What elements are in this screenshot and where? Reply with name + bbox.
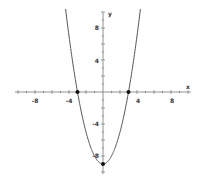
y-axis-label: y xyxy=(108,10,112,18)
x-tick-label: -4 xyxy=(66,97,73,104)
root-point-left xyxy=(76,90,80,94)
root-point-right xyxy=(127,90,131,94)
y-tick-label: -4 xyxy=(92,120,99,127)
y-tick-label: 4 xyxy=(95,57,99,64)
x-tick-label: 8 xyxy=(170,97,174,104)
parabola-chart: -8 -4 4 8 8 4 -4 -8 x y xyxy=(0,0,199,177)
y-tick-label: 8 xyxy=(95,24,99,31)
chart-canvas: -8 -4 4 8 8 4 -4 -8 x y xyxy=(0,0,199,177)
vertex-point xyxy=(101,162,105,166)
x-tick-label: -8 xyxy=(32,97,39,104)
x-tick-label: 4 xyxy=(136,97,140,104)
x-axis-label: x xyxy=(186,83,190,90)
